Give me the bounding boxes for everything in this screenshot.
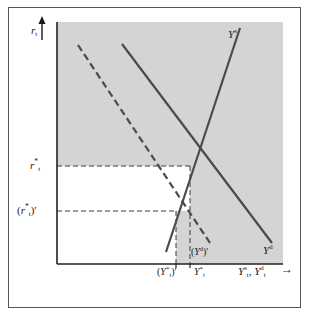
white-region-upper xyxy=(57,166,190,211)
supply-curve-label: Ys xyxy=(228,29,237,40)
x-tick-label-y-star-prime: (Y*t)′ xyxy=(157,267,177,277)
x-axis-label: Yst, Ydt xyxy=(238,266,266,277)
figure-root: rt Yst, Ydt → r*t (r*t)′ (Y*t)′ Y*t Ys Y… xyxy=(0,0,311,318)
demand-curve-label: Yd xyxy=(263,245,273,256)
white-region-lower xyxy=(57,211,176,264)
y-axis-arrow-head xyxy=(39,16,46,24)
demand-curve-shifted-label: (Yd)′ xyxy=(191,247,209,257)
x-tick-label-y-star: Y*t xyxy=(194,267,205,277)
y-tick-label-r-star-prime: (r*t)′ xyxy=(17,205,37,216)
y-axis-label: rt xyxy=(31,25,37,36)
y-tick-label-r-star: r*t xyxy=(30,160,40,171)
x-axis-arrow-icon: → xyxy=(281,263,293,275)
